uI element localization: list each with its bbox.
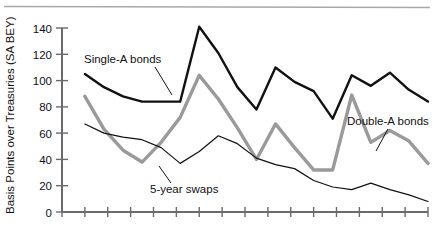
- y-tick-label: 60: [39, 128, 52, 140]
- annotation-label-5-year-swaps: 5-year swaps: [150, 183, 219, 195]
- y-tick-label: 140: [33, 23, 52, 35]
- y-tick-label: 120: [33, 49, 52, 61]
- y-tick-label: 80: [39, 101, 52, 113]
- chart-figure: Basis Points over Treasuries (SA BEY) 14…: [0, 0, 432, 229]
- y-tick-label: 0: [46, 207, 52, 219]
- annotation-label-single-a-bonds: Single-A bonds: [84, 53, 162, 65]
- y-axis-title: Basis Points over Treasuries (SA BEY): [4, 16, 16, 214]
- annotation-label-double-a-bonds: Double-A bonds: [347, 115, 429, 127]
- top-divider-rule: [4, 7, 430, 8]
- y-tick-label: 100: [33, 75, 52, 87]
- y-tick-label: 20: [39, 180, 52, 192]
- y-tick-label: 40: [39, 154, 52, 166]
- line-chart-svg: Basis Points over Treasuries (SA BEY) 14…: [0, 0, 432, 229]
